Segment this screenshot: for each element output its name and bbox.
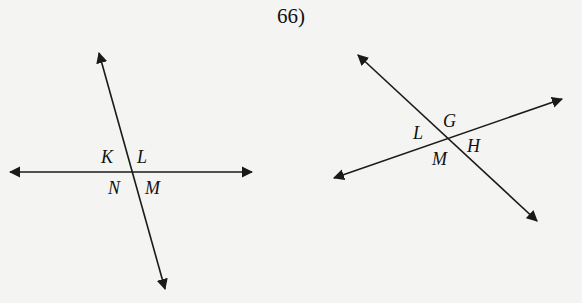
- angle-label-l: L: [412, 123, 423, 143]
- figure-right: G L H M: [334, 55, 562, 221]
- angle-label-k: K: [100, 147, 114, 167]
- transversal-line: [99, 53, 165, 289]
- angle-label-n: N: [107, 178, 121, 198]
- angle-label-m: M: [144, 178, 161, 198]
- figure-left: K L N M: [10, 53, 252, 289]
- diagram-canvas: K L N M G L H M: [0, 0, 582, 303]
- angle-label-m: M: [431, 149, 448, 169]
- angle-label-h: H: [466, 136, 481, 156]
- angle-label-l: L: [136, 147, 147, 167]
- angle-label-g: G: [443, 111, 456, 131]
